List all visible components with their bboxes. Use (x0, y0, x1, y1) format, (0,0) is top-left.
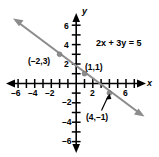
x-tick-label-neg4: –4 (28, 88, 37, 98)
y-axis-arrow-up (72, 13, 80, 22)
x-tick-label-neg6: –6 (11, 88, 20, 98)
y-axis-label: y (82, 6, 87, 16)
y-tick-label-pos6: 6 (64, 21, 69, 31)
equation-label: 2x + 3y = 5 (96, 38, 142, 48)
coordinate-graph: y x –6 –4 –2 2 6 6 4 2 –2 –4 –6 (–2,3) (… (0, 0, 159, 157)
x-tick-label-pos2: 2 (90, 88, 95, 98)
point-label-1-1: (1,1) (85, 62, 102, 72)
point-marker-neg2-3 (57, 52, 62, 57)
point-label-4-neg1: (4,–1) (86, 112, 108, 122)
point-label-neg2-3: (–2,3) (28, 56, 50, 66)
x-axis-label: x (147, 78, 152, 88)
plotted-line-series (13, 19, 145, 117)
y-tick-label-neg4: –4 (62, 117, 71, 127)
y-axis-arrow-down (72, 144, 80, 153)
y-tick-label-neg6: –6 (62, 136, 71, 146)
y-tick-label-pos2: 2 (64, 59, 69, 69)
x-axis-arrow-right (137, 80, 146, 88)
x-tick-label-pos6: 6 (123, 88, 128, 98)
y-tick-label-pos4: 4 (64, 40, 69, 50)
x-axis-arrow-left (6, 80, 15, 88)
y-tick-label-neg2: –2 (62, 97, 71, 107)
graph-canvas (0, 0, 159, 157)
equation-text: 2x + 3y = 5 (96, 38, 142, 48)
point-marker-1-1 (82, 71, 87, 76)
x-tick-label-neg2: –2 (45, 88, 54, 98)
callout-arrow-4-neg1 (102, 93, 112, 110)
